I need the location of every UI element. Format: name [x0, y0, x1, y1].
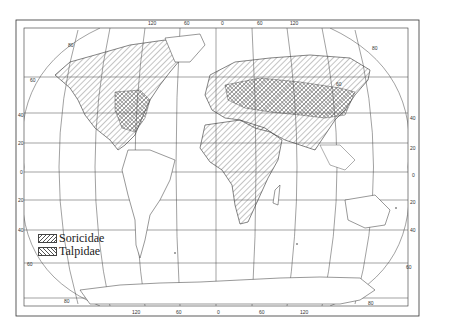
lat-label-left-4: 0	[20, 170, 23, 175]
lat-label-left-6: 40	[18, 228, 24, 233]
lat-label-right-2: 40	[410, 116, 416, 121]
lat-label-right-4: 0	[412, 173, 415, 178]
lon-label-top-5: 120	[290, 21, 298, 26]
lon-label-top-4: 60	[257, 21, 263, 26]
lat-label-right-6: 40	[410, 228, 416, 233]
lat-label-left-2: 40	[18, 113, 24, 118]
antarctica	[80, 277, 375, 304]
lat-label-left-5: 20	[18, 198, 24, 203]
lon-label-bottom-4: 60	[259, 310, 265, 315]
soricidae-swatch-icon	[38, 234, 57, 243]
lat-label-left-7: 60	[27, 262, 33, 267]
talpidae-swatch-icon	[38, 247, 57, 256]
lat-label-se-80: 80	[368, 301, 374, 306]
lat-label-right-1: 60	[336, 82, 342, 87]
lon-label-top-1: 120	[148, 21, 156, 26]
lon-label-bottom-5: 120	[300, 310, 308, 315]
lon-label-top-3: 0	[221, 21, 224, 26]
lat-label-right-5: 20	[410, 200, 416, 205]
lat-label-left-3: 20	[18, 141, 24, 146]
lon-label-bottom-2: 60	[176, 310, 182, 315]
map-legend: Soricidae Talpidae	[38, 232, 104, 258]
lon-label-bottom-3: 0	[217, 310, 220, 315]
lat-label-sw-80: 80	[64, 299, 70, 304]
lat-label-right-3: 20	[410, 146, 416, 151]
legend-label-talpidae: Talpidae	[59, 244, 100, 259]
lat-label-ne-80: 80	[372, 46, 378, 51]
world-map	[0, 0, 454, 334]
lat-label-nw-80: 80	[68, 43, 74, 48]
lat-label-left-1: 60	[30, 78, 36, 83]
lon-label-top-2: 60	[184, 21, 190, 26]
lon-label-bottom-1: 120	[132, 310, 140, 315]
lat-label-right-7: 60	[406, 265, 412, 270]
legend-item-talpidae: Talpidae	[38, 245, 104, 258]
